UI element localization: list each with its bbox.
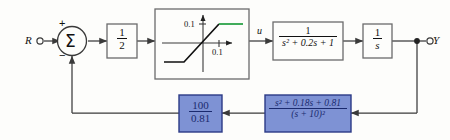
control-signal-label-u: u: [257, 26, 262, 36]
diagram-svg: [0, 0, 450, 140]
feedback-gain-denominator: 0.81: [189, 111, 212, 124]
saturation-y-tick-label: 0.1: [184, 20, 195, 29]
gain-half-denominator: 2: [117, 38, 127, 51]
notch-filter-denominator: (s + 10)²: [269, 108, 347, 119]
summation-symbol: Σ: [65, 33, 76, 50]
notch-filter-transfer-function: s² + 0.18s + 0.81 (s + 10)²: [265, 98, 351, 119]
plant-numerator: 1: [279, 25, 337, 36]
summer-minus-sign: −: [59, 50, 65, 61]
feedback-takeoff-node: [414, 38, 420, 44]
integrator-denominator: s: [373, 38, 383, 51]
summer-plus-sign: +: [59, 18, 65, 29]
saturation-block: [155, 9, 249, 79]
saturation-x-tick-label: 0.1: [212, 48, 223, 57]
input-label-r: R: [25, 35, 32, 46]
gain-half-value: 1 2: [107, 26, 137, 51]
block-diagram-canvas: R Y u Σ + − 1 2 0.1 0.1 1 s² + 0.2s + 1 …: [0, 0, 450, 140]
output-label-y: Y: [433, 35, 439, 46]
plant-denominator: s² + 0.2s + 1: [279, 36, 337, 48]
feedback-gain-value: 100 0.81: [179, 99, 222, 124]
integrator-numerator: 1: [373, 26, 383, 38]
input-terminal-r: [37, 38, 43, 44]
notch-filter-numerator: s² + 0.18s + 0.81: [269, 98, 347, 108]
integrator-transfer-function: 1 s: [363, 26, 392, 51]
gain-half-numerator: 1: [117, 26, 127, 38]
feedback-gain-numerator: 100: [189, 99, 212, 111]
plant-transfer-function: 1 s² + 0.2s + 1: [273, 25, 343, 48]
